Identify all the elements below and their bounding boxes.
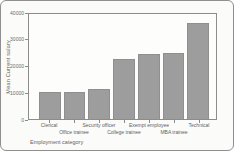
x-tick-mark (174, 120, 175, 123)
bar-4 (138, 54, 160, 119)
x-axis-title: Employment category (30, 139, 83, 145)
x-category-label: MBA trainee (160, 130, 187, 135)
y-tick-label: 30000 (2, 37, 24, 42)
bar-0 (39, 92, 61, 119)
y-tick-label: 20000 (2, 64, 24, 69)
x-category-label: Exempt employee (129, 123, 169, 128)
x-category-label: College trainee (107, 130, 141, 135)
bar-1 (64, 92, 86, 119)
x-category-label: Security officer (83, 123, 116, 128)
bar-2 (88, 89, 110, 119)
x-category-label: Office trainee (59, 130, 89, 135)
x-category-label: Clerical (41, 123, 58, 128)
y-tick-mark (25, 39, 28, 40)
y-tick-mark (25, 120, 28, 121)
y-tick-mark (25, 13, 28, 14)
y-tick-label: 10000 (2, 91, 24, 96)
y-tick-mark (25, 93, 28, 94)
x-tick-mark (124, 120, 125, 123)
y-tick-label: 40000 (2, 11, 24, 16)
y-tick-mark (25, 66, 28, 67)
bars (39, 14, 209, 119)
bar-6 (187, 23, 209, 119)
x-tick-mark (74, 120, 75, 123)
bar-3 (113, 59, 135, 119)
plot-area (28, 13, 217, 120)
chart-figure: Mean Current salary Employment category … (0, 0, 234, 151)
bar-5 (163, 53, 185, 119)
y-tick-label: 0 (2, 118, 24, 123)
x-category-label: Technical (189, 123, 210, 128)
